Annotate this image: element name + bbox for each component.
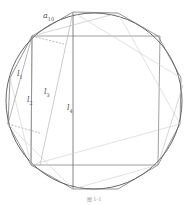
- l1-chord: [8, 36, 32, 124]
- label-l2-sub: 2: [30, 100, 33, 106]
- light-chord-2: [73, 12, 181, 78]
- label-l3-sub: 3: [47, 92, 50, 98]
- light-chord-6: [73, 165, 158, 189]
- light-chord-3: [118, 13, 180, 124]
- inscribed-polygon: [8, 12, 181, 189]
- label-l4-sub: 4: [70, 108, 73, 114]
- label-l2: l2: [27, 96, 33, 106]
- label-a10-sub: 10: [48, 16, 54, 22]
- label-l3: l3: [44, 88, 50, 98]
- light-chord-8: [10, 78, 31, 165]
- figure-caption: 图 1-1: [0, 195, 188, 202]
- label-l1: l1: [17, 70, 23, 80]
- inscribed-square: [31, 36, 160, 165]
- label-l4: l4: [67, 104, 73, 114]
- dashed-segment-top: [32, 36, 64, 44]
- light-chord-7: [8, 124, 73, 189]
- circle-inscribed-polygons-diagram: a10 l1 l2 l3 l4 图 1-1: [0, 0, 188, 205]
- light-chord-5: [31, 124, 180, 165]
- label-a10: a10: [43, 12, 54, 22]
- label-l1-sub: 1: [20, 74, 23, 80]
